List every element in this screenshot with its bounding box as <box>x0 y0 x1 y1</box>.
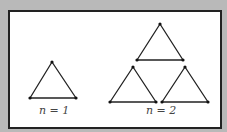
matchstick-triangle <box>162 67 208 102</box>
match-head <box>158 22 161 25</box>
matchstick-triangle <box>110 67 156 102</box>
figure-label-n2: n = 2 <box>146 104 176 117</box>
matchstick <box>185 67 208 102</box>
matchstick <box>133 67 156 102</box>
match-head <box>131 65 134 68</box>
match-head <box>181 58 184 61</box>
figure-label-n1: n = 1 <box>39 104 69 117</box>
matchstick <box>137 24 160 60</box>
matchstick <box>162 67 185 102</box>
match-head <box>108 100 111 103</box>
matchstick <box>52 62 76 98</box>
matchstick-diagram <box>0 0 227 132</box>
match-head <box>50 60 53 63</box>
match-head <box>74 96 77 99</box>
match-head <box>135 58 138 61</box>
match-head <box>206 100 209 103</box>
matchstick <box>30 62 52 98</box>
match-head <box>183 65 186 68</box>
matchstick <box>160 24 183 60</box>
matchstick <box>110 67 133 102</box>
matchstick-triangle <box>137 24 183 60</box>
matchstick-triangle <box>30 62 76 98</box>
match-head <box>28 96 31 99</box>
